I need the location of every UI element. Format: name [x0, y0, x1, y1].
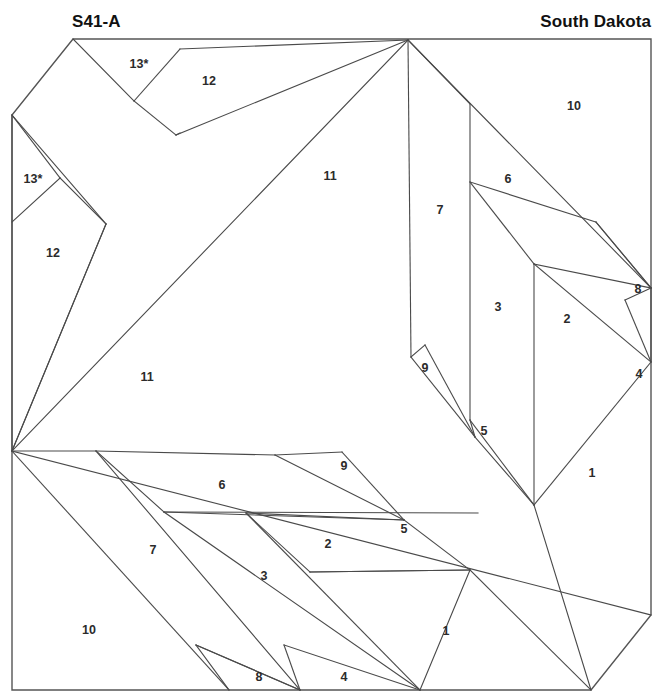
piece-number-label: 1 [443, 624, 450, 638]
piece-number-label: 6 [505, 172, 512, 186]
quilt-block-diagram: 13*121013*11671283294115916527310184 [0, 0, 662, 700]
piece-number-label: 2 [564, 312, 571, 326]
seam-line [12, 115, 60, 178]
piece-number-label: 9 [422, 361, 429, 375]
seam-line [246, 513, 310, 572]
piece-number-label: 5 [401, 522, 408, 536]
piece-number-label: 4 [636, 367, 643, 381]
seam-line-group [12, 39, 651, 690]
piece-number-label: 10 [82, 623, 96, 637]
seam-line [275, 455, 404, 520]
piece-number-label: 13* [130, 57, 149, 71]
piece-number-label: 11 [140, 370, 153, 384]
seam-line [310, 570, 470, 572]
piece-number-label: 3 [495, 300, 502, 314]
piece-number-label: 8 [256, 670, 263, 684]
seam-line [96, 451, 300, 690]
seam-line [475, 437, 534, 505]
seam-line [470, 182, 534, 264]
seam-line [12, 451, 229, 690]
piece-number-label: 12 [202, 74, 216, 88]
seam-line [60, 178, 106, 224]
seam-line [275, 452, 342, 455]
piece-number-label: 1 [589, 466, 596, 480]
seam-line [246, 513, 404, 520]
seam-line [404, 520, 470, 570]
piece-number-label: 2 [325, 537, 332, 551]
piece-number-label: 9 [341, 459, 348, 473]
seam-line [96, 451, 275, 455]
seam-line [96, 451, 164, 512]
seam-line [180, 40, 408, 49]
seam-line [425, 345, 475, 437]
seam-line [12, 115, 106, 224]
seam-line [284, 645, 420, 690]
seam-line [408, 40, 411, 357]
seam-line [470, 182, 596, 222]
seam-line [134, 101, 176, 135]
seam-line [73, 39, 134, 101]
seam-line [164, 512, 420, 690]
pattern-page: S41-A South Dakota 13*121013*11671283294… [0, 0, 662, 700]
piece-number-label: 7 [437, 203, 444, 217]
block-outline-path [12, 39, 651, 690]
seam-line [284, 645, 300, 690]
seam-line [246, 513, 420, 690]
seam-line [534, 362, 651, 505]
seam-line [625, 300, 651, 362]
seam-line [534, 264, 651, 362]
seam-line [411, 345, 425, 357]
seam-line [408, 40, 651, 288]
piece-number-label: 10 [567, 99, 581, 113]
seam-line [342, 452, 404, 520]
piece-number-label: 5 [481, 424, 488, 438]
piece-number-label: 11 [323, 169, 336, 183]
piece-number-label: 6 [219, 478, 226, 492]
seam-line [164, 512, 478, 513]
seam-line [12, 451, 651, 615]
block-outline [12, 39, 651, 690]
piece-number-label: 8 [635, 282, 642, 296]
piece-label-group: 13*121013*11671283294115916527310184 [24, 57, 643, 684]
piece-number-label: 4 [341, 670, 348, 684]
piece-number-label: 3 [261, 569, 268, 583]
piece-number-label: 13* [24, 172, 43, 186]
seam-line [196, 645, 300, 690]
piece-number-label: 7 [150, 543, 157, 557]
seam-line [12, 40, 408, 451]
piece-number-label: 12 [46, 246, 60, 260]
